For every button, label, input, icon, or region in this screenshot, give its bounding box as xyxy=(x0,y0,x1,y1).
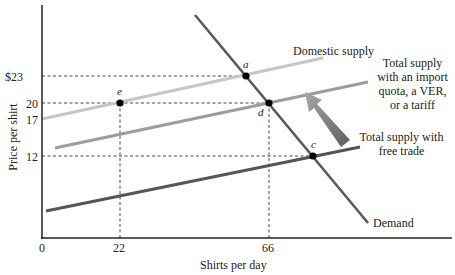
point-a-label: a xyxy=(243,58,249,70)
x-tick-22: 22 xyxy=(113,242,125,254)
quota-label-line-2: with an import xyxy=(370,70,455,84)
point-d-label: d xyxy=(258,106,264,118)
point-d xyxy=(265,99,272,106)
free-trade-label-line-1: Total supply with xyxy=(348,130,455,144)
y-tick-23: $23 xyxy=(5,71,23,83)
y-tick-20: 20 xyxy=(26,98,38,110)
point-e-label: e xyxy=(117,85,122,97)
point-c-label: c xyxy=(311,138,316,150)
quota-label-line-4: or a tariff xyxy=(370,98,455,112)
domestic-supply-line xyxy=(42,58,323,119)
quota-label-line-3: quota, a VER, xyxy=(370,84,455,98)
x-tick-66: 66 xyxy=(262,242,274,254)
y-tick-12: 12 xyxy=(26,151,38,163)
point-a xyxy=(242,72,249,79)
quota-label-line-1: Total supply xyxy=(370,56,455,70)
free-trade-label-line-2: free trade xyxy=(348,144,455,158)
demand-label: Demand xyxy=(373,216,414,230)
point-c xyxy=(309,152,316,159)
x-axis-label: Shirts per day xyxy=(200,258,267,272)
free-trade-supply-label: Total supply with free trade xyxy=(348,130,455,158)
x-tick-0: 0 xyxy=(39,242,45,254)
quota-supply-label: Total supply with an import quota, a VER… xyxy=(370,56,455,112)
dashed-guides xyxy=(42,76,313,238)
domestic-supply-label: Domestic supply xyxy=(293,44,374,58)
y-axis-label: Price per shirt xyxy=(6,92,20,182)
point-e xyxy=(116,99,123,106)
y-tick-17: 17 xyxy=(26,114,38,126)
